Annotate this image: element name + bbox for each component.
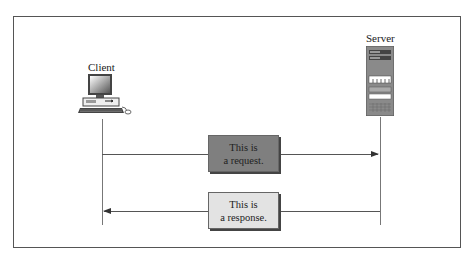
client-label: Client xyxy=(88,62,115,73)
response-line-1: This is xyxy=(229,198,257,211)
server-lifeline xyxy=(380,117,381,225)
request-line-2: a request. xyxy=(223,154,263,167)
response-message-box: This is a response. xyxy=(208,192,279,229)
request-line-1: This is xyxy=(229,141,257,154)
desktop-computer-icon xyxy=(78,74,132,118)
server-tower-icon xyxy=(366,46,394,116)
server-label: Server xyxy=(366,33,395,44)
response-arrowhead-icon xyxy=(103,208,111,214)
response-line-2: a response. xyxy=(220,211,267,224)
request-message-box: This is a request. xyxy=(208,135,279,172)
request-arrowhead-icon xyxy=(371,151,379,157)
